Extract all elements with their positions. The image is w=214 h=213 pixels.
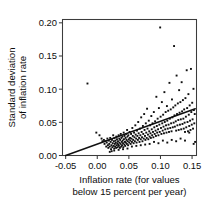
data-point [192, 128, 194, 130]
data-point [165, 124, 167, 126]
data-point [137, 139, 139, 141]
data-point [151, 128, 153, 130]
data-point [144, 139, 146, 141]
data-point [148, 130, 150, 132]
data-point [164, 121, 166, 123]
data-point [179, 124, 181, 126]
data-point [116, 138, 118, 140]
data-point [157, 118, 159, 120]
data-point [185, 116, 187, 118]
data-point [155, 135, 157, 137]
data-point [193, 88, 195, 90]
data-point [135, 145, 137, 147]
data-point [189, 120, 191, 122]
data-point [121, 144, 123, 146]
data-point [133, 132, 135, 134]
data-point [125, 137, 127, 139]
data-point [190, 68, 192, 70]
data-point [110, 141, 112, 143]
data-point [161, 122, 163, 124]
data-point [167, 128, 169, 130]
data-point [113, 140, 115, 142]
data-point [172, 106, 174, 108]
plot-frame [63, 20, 197, 156]
data-point [131, 146, 133, 148]
data-point [158, 142, 160, 144]
data-point [153, 141, 155, 143]
data-point [173, 45, 175, 47]
data-point [155, 96, 157, 98]
data-point [145, 122, 147, 124]
data-point [188, 114, 190, 116]
data-point [141, 131, 143, 133]
data-point [192, 118, 194, 120]
data-point [140, 138, 142, 140]
data-point [178, 129, 180, 131]
data-point [182, 99, 184, 101]
data-point [185, 126, 187, 128]
data-point [142, 133, 144, 135]
data-point [160, 127, 162, 129]
data-point [166, 142, 168, 144]
data-point [160, 133, 162, 135]
y-axis-title-line2: of inflation rate [17, 56, 28, 119]
data-point [119, 139, 121, 141]
data-point [191, 124, 193, 126]
x-axis-title-line2: below 15 percent per year) [72, 186, 186, 197]
data-point [162, 140, 164, 142]
regression-line [66, 109, 196, 156]
data-point [142, 140, 144, 142]
data-point [175, 120, 177, 122]
data-point [154, 133, 156, 135]
data-point [183, 128, 185, 130]
x-tick-label: 0.10 [151, 160, 169, 171]
data-point [182, 123, 184, 125]
data-point [136, 142, 138, 144]
data-point [132, 139, 134, 141]
data-point [99, 134, 101, 136]
data-point [109, 146, 111, 148]
data-point [184, 131, 186, 133]
data-point [182, 118, 184, 120]
data-point [146, 137, 148, 139]
data-point [178, 89, 180, 91]
data-point [166, 120, 168, 122]
data-point [179, 101, 181, 103]
data-point [150, 132, 152, 134]
data-point [169, 127, 171, 129]
data-point [172, 126, 174, 128]
data-point [124, 145, 126, 147]
data-point [136, 135, 138, 137]
data-point [143, 138, 145, 140]
data-point [162, 114, 164, 116]
data-point [175, 130, 177, 132]
data-point [131, 141, 133, 143]
data-point [105, 146, 107, 148]
data-point [104, 143, 106, 145]
y-axis-title-line1: Standard deviation [6, 47, 17, 127]
data-point [154, 120, 156, 122]
data-point [194, 141, 196, 143]
data-point [187, 93, 189, 95]
data-point [176, 75, 178, 77]
data-point [144, 129, 146, 131]
data-point [170, 122, 172, 124]
data-point [190, 129, 192, 131]
data-point [122, 146, 124, 148]
data-point [131, 138, 133, 140]
data-point [171, 98, 173, 100]
data-point [149, 143, 151, 145]
y-tick-label: 0.00 [39, 150, 57, 161]
data-point [95, 132, 97, 134]
data-point [144, 135, 146, 137]
data-point [113, 150, 115, 152]
data-point [135, 134, 137, 136]
data-point [106, 142, 108, 144]
data-point [144, 144, 146, 146]
data-point [187, 121, 189, 123]
y-tick-label: 0.20 [39, 17, 57, 28]
data-point [188, 125, 190, 127]
data-point [147, 138, 149, 140]
data-point [156, 132, 158, 134]
data-point [127, 148, 129, 150]
